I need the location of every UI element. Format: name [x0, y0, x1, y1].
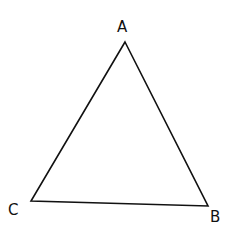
triangle-diagram: A B C — [0, 0, 239, 240]
vertex-label-c: C — [8, 201, 18, 219]
vertex-label-b: B — [210, 208, 220, 226]
triangle-abc — [31, 42, 208, 206]
vertex-label-a: A — [117, 18, 128, 36]
